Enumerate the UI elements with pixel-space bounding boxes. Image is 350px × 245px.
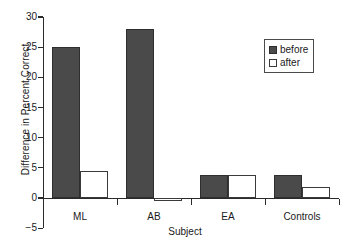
bar-ab-after (154, 198, 182, 201)
y-tick-label: 10 (0, 133, 37, 143)
x-tick-label: EA (188, 211, 268, 222)
y-tick-label: 5 (0, 163, 37, 173)
y-tick-label: 30 (0, 12, 37, 22)
y-tick-label: 0 (0, 193, 37, 203)
y-tick-label: 15 (0, 103, 37, 113)
bar-ea-before (200, 175, 228, 198)
y-axis-line (43, 17, 44, 228)
legend-swatch-after (269, 59, 277, 67)
bar-controls-before (274, 175, 302, 198)
x-tick-label: Controls (262, 211, 342, 222)
x-tick (265, 199, 266, 205)
y-tick (38, 228, 43, 229)
bar-ml-after (80, 171, 108, 198)
y-tick-label: −5 (0, 223, 37, 233)
legend-item-before: before (269, 43, 308, 56)
y-tick (38, 137, 43, 138)
legend-item-after: after (269, 56, 308, 69)
x-tick (43, 199, 44, 205)
x-tick (339, 199, 340, 205)
chart-legend: before after (264, 39, 314, 73)
y-tick (38, 47, 43, 48)
y-tick-label: 20 (0, 72, 37, 82)
y-tick-label: 25 (0, 42, 37, 52)
y-tick (38, 107, 43, 108)
bar-chart-figure: Difference in Percent Correct Subject −5… (0, 0, 350, 245)
y-tick (38, 167, 43, 168)
bar-controls-after (302, 187, 330, 198)
y-tick (38, 77, 43, 78)
x-tick (191, 199, 192, 205)
x-tick-label: AB (114, 211, 194, 222)
y-tick (38, 16, 43, 17)
bar-ea-after (228, 175, 256, 198)
x-tick-label: ML (40, 211, 120, 222)
bar-ab-before (126, 29, 154, 198)
legend-label-before: before (280, 44, 308, 55)
bar-ml-before (52, 47, 80, 198)
legend-label-after: after (280, 57, 300, 68)
legend-swatch-before (269, 46, 277, 54)
x-tick (117, 199, 118, 205)
x-axis-title: Subject (35, 226, 335, 237)
